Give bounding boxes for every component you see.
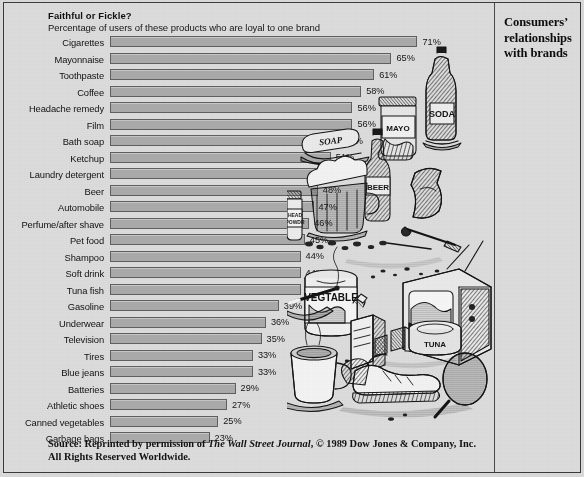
bar-rect bbox=[110, 185, 318, 196]
bar-rect bbox=[110, 152, 331, 163]
bar-row: Headache remedy56% bbox=[4, 101, 494, 118]
bar-category-label: Tires bbox=[4, 351, 104, 362]
bar-row: Blue jeans33% bbox=[4, 365, 494, 382]
bar-value-label: 36% bbox=[271, 317, 289, 327]
caption-line-3: with brands bbox=[504, 46, 580, 62]
bar-category-label: Blue jeans bbox=[4, 367, 104, 378]
bar-value-label: 71% bbox=[422, 37, 440, 47]
chart-panel: Faithful or Fickle? Percentage of users … bbox=[4, 3, 494, 472]
bar-category-label: Underwear bbox=[4, 318, 104, 329]
bar-row: Perfume/after shave46% bbox=[4, 217, 494, 234]
bar-category-label: Bath soap bbox=[4, 136, 104, 147]
bar-category-label: Batteries bbox=[4, 384, 104, 395]
bar-rect bbox=[110, 284, 301, 295]
bar-value-label: 29% bbox=[241, 383, 259, 393]
bar-row: Automobile47% bbox=[4, 200, 494, 217]
bar-row: Beer48% bbox=[4, 184, 494, 201]
source-prefix: Source: Reprinted by permission of bbox=[48, 438, 208, 449]
bar-rect bbox=[110, 267, 301, 278]
source-publication: The Wall Street Journal bbox=[208, 438, 311, 449]
bar-category-label: Pet food bbox=[4, 235, 104, 246]
bar-category-label: Gasoline bbox=[4, 301, 104, 312]
bar-value-label: 48% bbox=[323, 185, 341, 195]
bar-row: Tires33% bbox=[4, 349, 494, 366]
bar-row: Soft drink44% bbox=[4, 266, 494, 283]
bar-value-label: 46% bbox=[314, 218, 332, 228]
bar-rect bbox=[110, 317, 266, 328]
bar-category-label: Tuna fish bbox=[4, 285, 104, 296]
bar-value-label: 44% bbox=[306, 251, 324, 261]
bar-category-label: Toothpaste bbox=[4, 70, 104, 81]
chart-title: Faithful or Fickle? bbox=[48, 10, 132, 21]
bar-value-label: 51% bbox=[336, 152, 354, 162]
bar-value-label: 58% bbox=[366, 86, 384, 96]
bar-row: Television35% bbox=[4, 332, 494, 349]
bar-value-label: 44% bbox=[306, 268, 324, 278]
bar-rect bbox=[110, 36, 417, 47]
bar-value-label: 61% bbox=[379, 70, 397, 80]
bar-category-label: Television bbox=[4, 334, 104, 345]
bar-rect bbox=[110, 119, 352, 130]
bar-row: Laundry detergent48% bbox=[4, 167, 494, 184]
bar-row: Underwear36% bbox=[4, 316, 494, 333]
bar-value-label: 39% bbox=[284, 301, 302, 311]
bar-value-label: 33% bbox=[258, 367, 276, 377]
bar-category-label: Perfume/after shave bbox=[4, 219, 104, 230]
bar-rect bbox=[110, 350, 253, 361]
bar-category-label: Film bbox=[4, 120, 104, 131]
caption-heading: Consumers’ relationships with brands bbox=[504, 15, 580, 62]
bar-category-label: Shampoo bbox=[4, 252, 104, 263]
bar-row: Batteries29% bbox=[4, 382, 494, 399]
source-note: Source: Reprinted by permission of The W… bbox=[48, 437, 478, 463]
bar-value-label: 44% bbox=[306, 284, 324, 294]
bar-category-label: Beer bbox=[4, 186, 104, 197]
figure-container: Faithful or Fickle? Percentage of users … bbox=[0, 0, 584, 477]
bar-rect bbox=[110, 416, 218, 427]
bar-value-label: 65% bbox=[396, 53, 414, 63]
bar-value-label: 25% bbox=[223, 416, 241, 426]
bar-category-label: Canned vegetables bbox=[4, 417, 104, 428]
bar-rect bbox=[110, 333, 262, 344]
bar-category-label: Soft drink bbox=[4, 268, 104, 279]
bar-value-label: 56% bbox=[357, 103, 375, 113]
bar-value-label: 35% bbox=[267, 334, 285, 344]
bar-rect bbox=[110, 69, 374, 80]
bar-row: Film56% bbox=[4, 118, 494, 135]
chart-subtitle: Percentage of users of these products wh… bbox=[48, 22, 320, 33]
bar-value-label: 53% bbox=[344, 136, 362, 146]
bar-chart-plot-area: Cigarettes71%Mayonnaise65%Toothpaste61%C… bbox=[4, 35, 494, 425]
bar-rect bbox=[110, 399, 227, 410]
bar-rect bbox=[110, 86, 361, 97]
bar-row: Shampoo44% bbox=[4, 250, 494, 267]
bar-value-label: 48% bbox=[323, 169, 341, 179]
bar-rect bbox=[110, 300, 279, 311]
bar-rect bbox=[110, 168, 318, 179]
bar-value-label: 47% bbox=[319, 202, 337, 212]
bar-category-label: Headache remedy bbox=[4, 103, 104, 114]
bar-rect bbox=[110, 383, 236, 394]
bar-category-label: Coffee bbox=[4, 87, 104, 98]
caption-line-2: relationships bbox=[504, 31, 580, 47]
bar-rect bbox=[110, 251, 301, 262]
bar-value-label: 56% bbox=[357, 119, 375, 129]
bar-row: Gasoline39% bbox=[4, 299, 494, 316]
bar-category-label: Laundry detergent bbox=[4, 169, 104, 180]
bar-value-label: 33% bbox=[258, 350, 276, 360]
bar-category-label: Cigarettes bbox=[4, 37, 104, 48]
bar-value-label: 27% bbox=[232, 400, 250, 410]
bar-row: Ketchup51% bbox=[4, 151, 494, 168]
bar-row: Mayonnaise65% bbox=[4, 52, 494, 69]
bar-rect bbox=[110, 201, 314, 212]
bar-value-label: 45% bbox=[310, 235, 328, 245]
bar-rect bbox=[110, 53, 391, 64]
bar-row: Athletic shoes27% bbox=[4, 398, 494, 415]
bar-category-label: Automobile bbox=[4, 202, 104, 213]
caption-panel: Consumers’ relationships with brands bbox=[495, 3, 581, 472]
bar-row: Canned vegetables25% bbox=[4, 415, 494, 432]
bar-row: Tuna fish44% bbox=[4, 283, 494, 300]
bar-rect bbox=[110, 135, 339, 146]
bar-row: Toothpaste61% bbox=[4, 68, 494, 85]
bar-category-label: Ketchup bbox=[4, 153, 104, 164]
bar-row: Bath soap53% bbox=[4, 134, 494, 151]
bar-rect bbox=[110, 102, 352, 113]
